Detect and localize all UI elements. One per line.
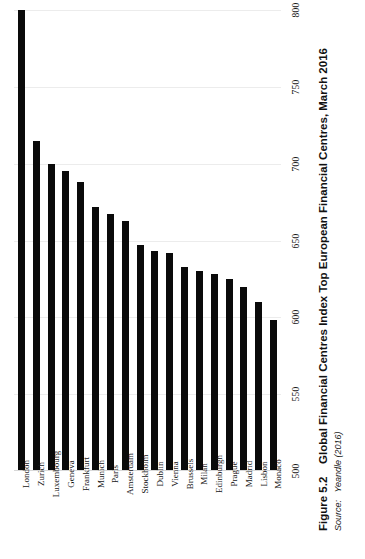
figure-container: 500550600650700750800 LondonZurichLuxemb…	[0, 0, 365, 559]
bar-luxembourg	[48, 164, 55, 471]
bar-london	[18, 10, 25, 471]
x-label-slot: Vienna	[162, 474, 177, 554]
bar-slot	[266, 10, 281, 471]
caption-title-line: Figure 5.2 Global Financial Centres Inde…	[316, 1, 331, 531]
bar-slot	[222, 10, 237, 471]
bar-munich	[92, 207, 99, 471]
bar-slot	[44, 10, 59, 471]
bar-slot	[192, 10, 207, 471]
bar-monaco	[270, 320, 277, 471]
bar-slot	[147, 10, 162, 471]
x-label-slot: Edinburgh	[207, 474, 222, 554]
bar-slot	[162, 10, 177, 471]
bar-slot	[177, 10, 192, 471]
bar-vienna	[166, 253, 173, 471]
x-label-slot: Prague	[222, 474, 237, 554]
x-label-slot: Zurich	[29, 474, 44, 554]
bar-stockholm	[137, 245, 144, 471]
bars-group	[14, 10, 281, 471]
bar-slot	[14, 10, 29, 471]
bar-paris	[107, 214, 114, 471]
bar-amsterdam	[122, 221, 129, 471]
bar-slot	[236, 10, 251, 471]
y-tick-label-650: 650	[290, 228, 302, 254]
x-label-slot: Frankfurt	[73, 474, 88, 554]
x-label-slot: London	[14, 474, 29, 554]
x-label-slot: Brussels	[177, 474, 192, 554]
y-tick-label-700: 700	[290, 151, 302, 177]
bar-slot	[103, 10, 118, 471]
bar-slot	[73, 10, 88, 471]
x-label-slot: Munich	[88, 474, 103, 554]
x-label-slot: Stockholm	[133, 474, 148, 554]
figure-caption: Figure 5.2 Global Financial Centres Inde…	[303, 0, 365, 559]
bar-prague	[226, 279, 233, 471]
figure-number: Figure 5.2	[317, 477, 329, 531]
bar-lisbon	[255, 302, 262, 471]
source-text: Yeandle (2016)	[333, 432, 343, 493]
source-label: Source:	[333, 500, 343, 531]
x-label-slot: Monaco	[266, 474, 281, 554]
bar-frankfurt	[77, 182, 84, 471]
bar-slot	[29, 10, 44, 471]
bar-geneva	[62, 171, 69, 471]
x-label-monaco: Monaco	[273, 459, 283, 489]
bar-brussels	[181, 267, 188, 471]
caption-source-line: Source: Yeandle (2016)	[332, 1, 345, 531]
y-tick-label-750: 750	[290, 74, 302, 100]
bar-milan	[196, 271, 203, 471]
y-tick-label-550: 550	[290, 381, 302, 407]
chart-plot-area	[14, 10, 281, 471]
x-label-slot: Lisbon	[251, 474, 266, 554]
bar-edinburgh	[211, 274, 218, 471]
bar-slot	[88, 10, 103, 471]
bar-slot	[207, 10, 222, 471]
bar-slot	[251, 10, 266, 471]
x-axis-category-labels: LondonZurichLuxembourgGenevaFrankfurtMun…	[14, 474, 281, 554]
bar-madrid	[240, 287, 247, 471]
bar-zurich	[33, 141, 40, 471]
bar-slot	[118, 10, 133, 471]
bar-slot	[133, 10, 148, 471]
y-tick-label-500: 500	[290, 458, 302, 484]
x-label-slot: Milan	[192, 474, 207, 554]
x-label-slot: Geneva	[58, 474, 73, 554]
x-label-slot: Amsterdam	[118, 474, 133, 554]
caption-title-text: Global Financial Centres Index Top Europ…	[317, 48, 329, 464]
x-label-slot: Dublin	[147, 474, 162, 554]
x-label-slot: Paris	[103, 474, 118, 554]
x-label-slot: Madrid	[236, 474, 251, 554]
y-tick-label-600: 600	[290, 304, 302, 330]
x-label-slot: Luxembourg	[44, 474, 59, 554]
bar-dublin	[151, 251, 158, 471]
bar-slot	[58, 10, 73, 471]
y-tick-label-800: 800	[290, 0, 302, 23]
